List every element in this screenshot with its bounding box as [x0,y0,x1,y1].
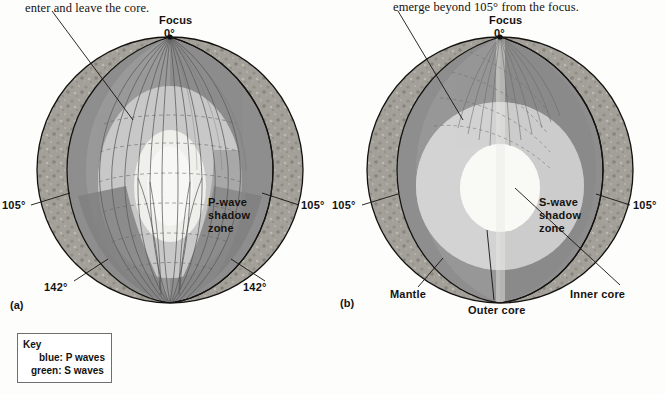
mantle-label: Mantle [390,288,426,300]
panel-a-globe [30,30,320,320]
subfigure-label-a: (a) [10,299,23,311]
panel-b-globe [360,30,650,320]
outer-core-label: Outer core [468,304,526,316]
s-wave-shadow-zone-label: S-wave shadow zone [539,196,603,235]
focus-label-b: Focus [489,14,522,26]
focus-angle-a: 0° [164,27,175,39]
caption-line-a: enter and leave the core. [25,1,149,16]
angle-142-right-a: 142° [243,281,267,293]
focus-angle-b: 0° [494,27,505,39]
key-title: Key [23,338,106,351]
angle-105-left-a: 105° [2,199,26,211]
subfigure-label-b: (b) [340,297,354,309]
key-entry-s-waves: green: S waves [23,364,106,377]
angle-105-right-b: 105° [633,199,657,211]
angle-142-left-a: 142° [44,281,68,293]
focus-label-a: Focus [159,14,192,26]
p-wave-shadow-zone-label: P-wave shadow zone [208,196,272,235]
angle-105-left-b: 105° [332,199,356,211]
key-legend-box: Key blue: P waves green: S waves [17,333,112,383]
figure-container: enter and leave the core. Focus 0° 105° … [0,0,665,395]
angle-105-right-a: 105° [301,199,325,211]
caption-line-b: emerge beyond 105° from the focus. [393,0,579,15]
key-entry-p-waves: blue: P waves [23,351,106,364]
inner-core-label: Inner core [570,288,625,300]
